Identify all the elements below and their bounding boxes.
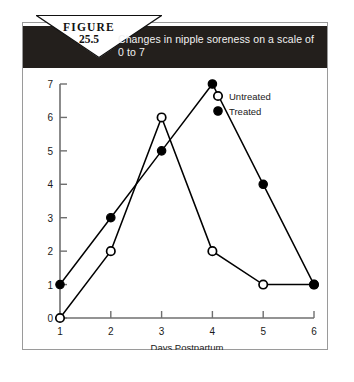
data-point <box>208 247 216 255</box>
data-point <box>157 147 165 155</box>
x-tick-label: 6 <box>311 326 317 337</box>
data-point <box>107 247 115 255</box>
y-tick-label: 7 <box>47 79 53 90</box>
x-tick-label: 4 <box>210 326 216 337</box>
data-point <box>56 314 64 322</box>
y-tick-label: 0 <box>47 313 53 324</box>
data-point <box>157 113 165 121</box>
y-tick-label: 2 <box>47 246 53 257</box>
data-point <box>259 180 267 188</box>
x-tick-label: 2 <box>108 326 114 337</box>
y-tick-label: 1 <box>47 280 53 291</box>
y-tick-label: 5 <box>47 146 53 157</box>
line-chart: 01234567123456Days PostpartumUntreatedTr… <box>22 68 328 350</box>
data-point <box>56 280 64 288</box>
data-point <box>259 280 267 288</box>
y-tick-label: 3 <box>47 213 53 224</box>
x-tick-label: 5 <box>260 326 266 337</box>
legend-label-treated: Treated <box>229 106 261 117</box>
y-tick-label: 4 <box>47 179 53 190</box>
legend-marker-untreated <box>214 92 222 100</box>
series-untreated <box>60 117 314 318</box>
figure-panel: FIGURE 25.5 Changes in nipple soreness o… <box>0 0 354 382</box>
data-point <box>310 280 318 288</box>
y-tick-label: 6 <box>47 112 53 123</box>
x-tick-label: 3 <box>159 326 165 337</box>
legend-marker-treated <box>214 107 222 115</box>
x-axis-title: Days Postpartum <box>151 342 224 350</box>
x-tick-label: 1 <box>57 326 63 337</box>
series-line <box>60 117 314 318</box>
legend-label-untreated: Untreated <box>229 91 271 102</box>
chart-area: 01234567123456Days PostpartumUntreatedTr… <box>22 68 328 350</box>
figure-caption: Changes in nipple soreness on a scale of… <box>118 33 318 58</box>
data-point <box>107 214 115 222</box>
figure-word: FIGURE <box>46 21 132 33</box>
data-point <box>208 80 216 88</box>
